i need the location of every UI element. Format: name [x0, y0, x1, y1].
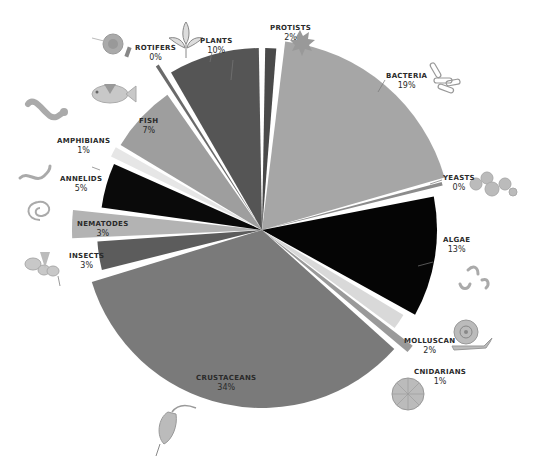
- snail-icon: [452, 320, 492, 350]
- label-rotifers: ROTIFERS 0%: [135, 44, 176, 63]
- insect-icon: [25, 252, 60, 286]
- bacteria-rods-icon: [429, 62, 460, 93]
- label-insects: INSECTS 3%: [69, 252, 104, 271]
- worm-icon: [20, 166, 50, 179]
- label-protists: PROTISTS 2%: [270, 24, 311, 43]
- copepod-icon: [156, 405, 196, 456]
- rotifer-icon: [92, 34, 132, 57]
- salamander-icon: [28, 102, 68, 118]
- label-nematodes: NEMATODES 3%: [77, 220, 129, 239]
- label-crustaceans: CRUSTACEANS 34%: [196, 374, 256, 393]
- label-cnidarians: CNIDARIANS 1%: [414, 368, 466, 387]
- label-annelids: ANNELIDS 5%: [60, 175, 102, 194]
- label-amphibians: AMPHIBIANS 1%: [57, 137, 110, 156]
- nematode-coil-icon: [28, 202, 49, 220]
- label-algae: ALGAE 13%: [443, 236, 470, 255]
- yeast-cells-icon: [470, 172, 517, 196]
- label-fish: FISH 7%: [139, 117, 159, 136]
- label-bacteria: BACTERIA 19%: [386, 72, 427, 91]
- label-plants: PLANTS 10%: [200, 37, 232, 56]
- fish-icon: [92, 84, 136, 103]
- label-yeasts: YEASTS 0%: [443, 174, 475, 193]
- label-molluscan: MOLLUSCAN 2%: [404, 337, 455, 356]
- algae-chain-icon: [460, 267, 488, 288]
